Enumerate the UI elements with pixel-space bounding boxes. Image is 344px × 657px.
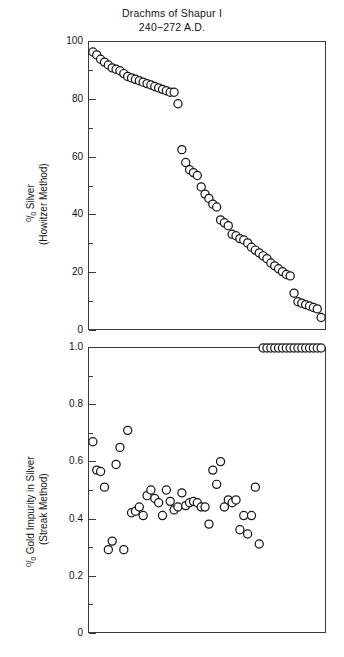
y-axis-major-tick — [89, 576, 96, 577]
y-axis-title-gold-text: Gold Impurity in Silver — [25, 456, 36, 554]
y-axis-minor-tick — [89, 433, 93, 434]
y-axis-major-tick — [89, 330, 96, 331]
data-point — [97, 467, 105, 475]
data-point — [162, 486, 170, 494]
y-axis-minor-tick — [89, 490, 93, 491]
chart-title-line1: Drachms of Shapur I — [0, 6, 344, 20]
data-point — [213, 480, 221, 488]
data-point — [313, 305, 321, 313]
y-axis-tick-label: 0.2 — [46, 571, 83, 581]
y-axis-minor-tick — [89, 243, 93, 244]
data-point — [290, 289, 298, 297]
y-axis-tick-label: 0.6 — [46, 456, 83, 466]
data-point — [247, 511, 255, 519]
y-axis-tick-label: 80 — [46, 94, 83, 104]
data-point — [193, 171, 201, 179]
y-axis-major-tick — [89, 461, 96, 462]
y-axis-major-tick — [89, 214, 96, 215]
data-point — [104, 546, 112, 554]
data-point — [232, 496, 240, 504]
data-point — [317, 344, 325, 352]
data-point — [170, 88, 178, 96]
y-axis-minor-tick — [89, 376, 93, 377]
chart-title: Drachms of Shapur I 240−272 A.D. — [0, 6, 344, 34]
data-point — [174, 503, 182, 511]
data-point — [116, 443, 124, 451]
y-axis-minor-tick — [89, 604, 93, 605]
y-axis-tick-label: 0.4 — [46, 514, 83, 524]
y-axis-major-tick — [89, 157, 96, 158]
data-point — [174, 100, 182, 108]
data-point — [120, 546, 128, 554]
data-point — [244, 530, 252, 538]
data-point — [178, 146, 186, 154]
data-point — [216, 458, 224, 466]
y-axis-tick-label: 1.0 — [46, 342, 83, 352]
percent-icon: 0/0 — [25, 557, 38, 567]
y-axis-major-tick — [89, 519, 96, 520]
data-point — [251, 483, 259, 491]
data-point — [158, 511, 166, 519]
y-axis-major-tick — [89, 347, 96, 348]
y-axis-tick-label: 60 — [46, 152, 83, 162]
y-axis-tick-label: 40 — [46, 209, 83, 219]
data-point — [209, 466, 217, 474]
data-point — [255, 540, 263, 548]
data-point — [224, 222, 232, 230]
data-point — [155, 499, 163, 507]
y-axis-minor-tick — [89, 301, 93, 302]
y-axis-tick-label: 0 — [46, 325, 83, 335]
data-point — [201, 503, 209, 511]
data-point — [286, 272, 294, 280]
data-point — [317, 313, 325, 321]
data-point — [135, 503, 143, 511]
data-point — [236, 526, 244, 534]
y-axis-major-tick — [89, 272, 96, 273]
figure-root: Drachms of Shapur I 240−272 A.D. 1008060… — [0, 0, 344, 657]
y-axis-minor-tick — [89, 70, 93, 71]
data-point — [240, 511, 248, 519]
y-axis-title-silver-line1: 0/0 Silver — [25, 184, 38, 222]
y-axis-tick-label: 0 — [46, 628, 83, 638]
y-axis-tick-label: 0.8 — [46, 399, 83, 409]
y-axis-title-gold-line2: (Streak Method) — [38, 473, 50, 545]
y-axis-minor-tick — [89, 186, 93, 187]
y-axis-major-tick — [89, 41, 96, 42]
y-axis-major-tick — [89, 633, 96, 634]
data-point — [178, 489, 186, 497]
scatter-plot-silver — [89, 42, 325, 329]
panel-gold-impurity — [88, 347, 326, 633]
panel-silver — [88, 41, 326, 330]
data-point — [213, 203, 221, 211]
data-point — [205, 520, 213, 528]
chart-title-line2: 240−272 A.D. — [0, 20, 344, 34]
y-axis-title-silver-line2: (Howitzer Method) — [38, 163, 50, 245]
y-axis-minor-tick — [89, 547, 93, 548]
scatter-plot-gold-impurity — [89, 348, 325, 632]
data-point — [108, 537, 116, 545]
y-axis-major-tick — [89, 99, 96, 100]
y-axis-title-gold-line1: 0/0 Gold Impurity in Silver — [25, 456, 38, 567]
y-axis-major-tick — [89, 404, 96, 405]
data-point — [147, 486, 155, 494]
data-point — [124, 426, 132, 434]
percent-icon: 0/0 — [25, 212, 38, 222]
data-point — [139, 511, 147, 519]
data-point — [166, 497, 174, 505]
data-point — [89, 438, 97, 446]
data-point — [112, 460, 120, 468]
y-axis-minor-tick — [89, 128, 93, 129]
y-axis-tick-label: 20 — [46, 267, 83, 277]
y-axis-title-silver-text: Silver — [25, 184, 36, 209]
data-point — [100, 483, 108, 491]
y-axis-tick-label: 100 — [46, 36, 83, 46]
